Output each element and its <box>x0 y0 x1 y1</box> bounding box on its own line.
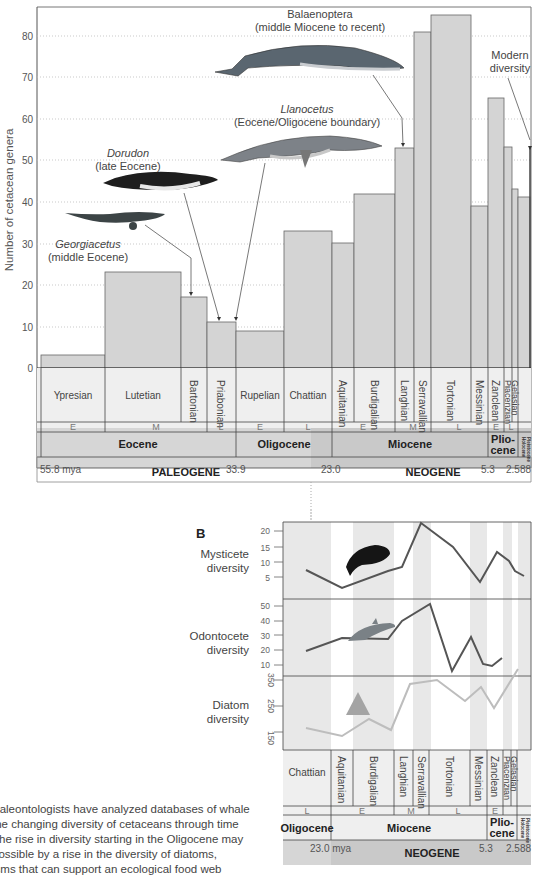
odontocete-label: Odontocete <box>190 630 249 642</box>
svg-text:E: E <box>492 806 498 816</box>
svg-text:Langhian: Langhian <box>398 756 409 797</box>
label-balaenoptera-range: (middle Miocene to recent) <box>255 21 385 33</box>
diatom-label: Diatom <box>213 699 249 711</box>
svg-text:Zanclean: Zanclean <box>490 380 501 421</box>
svg-text:L: L <box>304 806 309 816</box>
svg-text:L: L <box>218 422 223 432</box>
y-axis-label: Number of cetacean genera <box>3 128 15 271</box>
svg-text:cene: cene <box>490 444 515 456</box>
svg-text:L: L <box>456 422 461 432</box>
svg-text:50: 50 <box>22 155 34 166</box>
svg-text:Burdigalian: Burdigalian <box>368 756 379 806</box>
svg-text:Gelasian: Gelasian <box>510 380 520 416</box>
svg-text:Gelasian: Gelasian <box>509 756 519 792</box>
svg-text:33.9: 33.9 <box>226 464 246 475</box>
svg-text:30: 30 <box>22 239 34 250</box>
svg-text:cene: cene <box>489 827 514 839</box>
svg-text:Ypresian: Ypresian <box>54 390 93 401</box>
panel-b-letter: B <box>196 526 205 541</box>
svg-text:E: E <box>360 422 366 432</box>
svg-text:Lutetian: Lutetian <box>125 390 161 401</box>
svg-text:Aquitanian: Aquitanian <box>336 756 347 803</box>
svg-text:Tortonian: Tortonian <box>444 756 455 797</box>
svg-text:23.0: 23.0 <box>321 464 341 475</box>
svg-text:Burdigalian: Burdigalian <box>369 380 380 430</box>
svg-text:E: E <box>70 422 76 432</box>
svg-text:60: 60 <box>22 114 34 125</box>
svg-text:Pleistocene: Pleistocene <box>525 818 530 844</box>
svg-text:Eocene: Eocene <box>118 438 157 450</box>
svg-text:Holocene: Holocene <box>521 437 526 458</box>
svg-text:150: 150 <box>266 731 276 745</box>
svg-text:5.3: 5.3 <box>481 464 495 475</box>
label-llanocetus: Llanocetus <box>280 103 334 115</box>
svg-text:55.8 mya: 55.8 mya <box>40 464 82 475</box>
svg-text:30: 30 <box>261 631 271 641</box>
svg-text:10: 10 <box>261 558 271 568</box>
svg-text:M: M <box>407 806 415 816</box>
balaenoptera-illustration <box>215 45 404 76</box>
svg-text:Aquitanian: Aquitanian <box>337 380 348 427</box>
svg-text:5: 5 <box>265 573 270 583</box>
dorudon-illustration <box>103 172 218 190</box>
svg-text:Oligocene: Oligocene <box>257 438 310 450</box>
svg-text:Zanclean: Zanclean <box>489 756 500 797</box>
svg-text:5.3: 5.3 <box>479 843 493 854</box>
svg-text:70: 70 <box>22 72 34 83</box>
svg-text:50: 50 <box>261 601 271 611</box>
svg-text:E: E <box>493 422 499 432</box>
svg-text:diversity: diversity <box>207 713 249 725</box>
label-georgiacetus: Georgiacetus <box>55 238 121 250</box>
svg-text:diversity: diversity <box>207 644 249 656</box>
svg-text:10: 10 <box>22 322 34 333</box>
svg-text:40: 40 <box>261 616 271 626</box>
label-georgiacetus-range: (middle Eocene) <box>48 251 128 263</box>
label-dorudon: Dorudon <box>107 147 149 159</box>
svg-text:Tortonian: Tortonian <box>445 380 456 421</box>
svg-text:Messinian: Messinian <box>474 380 485 425</box>
label-balaenoptera: Balaenoptera <box>287 8 353 20</box>
svg-text:E: E <box>359 806 365 816</box>
svg-text:Rupelian: Rupelian <box>240 390 279 401</box>
svg-text:80: 80 <box>22 31 34 42</box>
svg-text:Serravallian: Serravallian <box>417 380 428 433</box>
georgiacetus-illustration <box>65 212 165 230</box>
svg-text:Miocene: Miocene <box>387 822 431 834</box>
svg-text:40: 40 <box>22 197 34 208</box>
svg-text:15: 15 <box>261 543 271 553</box>
y-axis-ticks: 0 10 20 30 40 50 60 70 80 <box>22 31 34 374</box>
mysticete-label: Mysticete <box>200 548 249 560</box>
svg-text:M: M <box>409 422 417 432</box>
svg-text:Priabonian: Priabonian <box>215 380 226 428</box>
svg-text:M: M <box>152 422 160 432</box>
svg-text:Bartonian: Bartonian <box>188 380 199 423</box>
svg-text:0: 0 <box>27 363 33 374</box>
neogene-label: NEOGENE <box>404 847 459 859</box>
svg-text:20: 20 <box>22 280 34 291</box>
svg-text:E: E <box>257 422 263 432</box>
svg-text:Pleistocene: Pleistocene <box>526 437 531 463</box>
label-modern-diversity: diversity <box>490 62 531 74</box>
label-modern: Modern <box>491 49 528 61</box>
svg-text:Langhian: Langhian <box>399 380 410 421</box>
llanocetus-illustration <box>221 136 382 168</box>
svg-text:20: 20 <box>261 526 271 536</box>
svg-text:10: 10 <box>261 660 271 670</box>
svg-text:Messinian: Messinian <box>473 756 484 801</box>
svg-text:2.588: 2.588 <box>506 843 531 854</box>
svg-text:diversity: diversity <box>207 562 249 574</box>
svg-text:2.588: 2.588 <box>506 464 531 475</box>
svg-text:Holocene: Holocene <box>520 818 525 839</box>
label-llanocetus-range: (Eocene/Oligocene boundary) <box>234 116 380 128</box>
svg-text:20: 20 <box>261 645 271 655</box>
label-dorudon-range: (late Eocene) <box>95 160 160 172</box>
svg-text:L: L <box>455 806 460 816</box>
figure-caption: Paleontologists have analyzed databases … <box>0 802 300 877</box>
svg-text:Chattian: Chattian <box>288 767 325 778</box>
svg-text:L: L <box>508 422 513 432</box>
svg-text:Serravallian: Serravallian <box>416 756 427 809</box>
svg-text:Miocene: Miocene <box>388 438 432 450</box>
bars <box>41 15 530 368</box>
svg-text:Chattian: Chattian <box>289 390 326 401</box>
svg-text:23.0 mya: 23.0 mya <box>310 843 352 854</box>
